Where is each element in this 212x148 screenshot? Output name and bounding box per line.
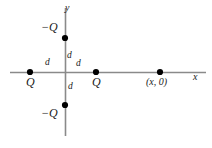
x-axis-label: x: [193, 72, 197, 82]
charge-right-positive-label: Q: [92, 76, 101, 88]
diagram-canvas: [0, 0, 212, 148]
charge-top-negative-dot: [62, 35, 68, 41]
charge-points-group: [27, 35, 163, 108]
charge-bottom-negative-label: −Q: [41, 107, 58, 119]
distance-left-label: d: [45, 58, 50, 68]
charge-left-positive-label: Q: [26, 76, 35, 88]
distance-down-label: d: [68, 82, 73, 92]
distance-up-label: d: [67, 51, 72, 61]
axes-group: [10, 8, 206, 136]
y-axis-label: y: [65, 3, 69, 13]
charge-top-negative-label: −Q: [41, 21, 58, 33]
field-point-label: (x, 0): [146, 77, 167, 87]
distance-right-label: d: [76, 59, 81, 69]
field-point-dot: [157, 69, 163, 75]
charge-diagram-figure: x y QQ(x, 0)−Q−Qdddd: [0, 0, 212, 148]
charge-bottom-negative-dot: [62, 102, 68, 108]
